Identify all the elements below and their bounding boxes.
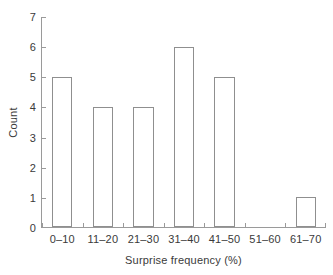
y-axis-tick-label: 7	[18, 12, 36, 22]
bar	[93, 107, 113, 227]
x-axis-tick-label: 11–20	[83, 232, 124, 246]
x-axis-line	[41, 227, 326, 228]
y-axis-tick-labels: 01234567	[14, 0, 36, 275]
y-axis-tick-label: 2	[18, 163, 36, 173]
y-axis-tick-label: 3	[18, 133, 36, 143]
x-axis-tick-labels: 0–1011–2021–3031–4041–5051–6061–70	[41, 232, 326, 248]
y-axis-tick-label: 1	[18, 193, 36, 203]
bars-layer	[42, 17, 326, 227]
bar	[174, 47, 194, 227]
bar	[52, 77, 72, 227]
x-axis-tick-label: 51–60	[245, 232, 286, 246]
bar	[214, 77, 234, 227]
bar	[296, 197, 316, 227]
x-axis-tick-label: 61–70	[285, 232, 326, 246]
bar	[133, 107, 153, 227]
histogram-figure: Count 01234567 0–1011–2021–3031–4041–505…	[0, 0, 333, 275]
y-axis-tick-label: 5	[18, 72, 36, 82]
y-axis-tick-mark	[42, 227, 46, 228]
y-axis-tick-label: 0	[18, 223, 36, 233]
x-axis-title: Surprise frequency (%)	[41, 253, 326, 267]
x-axis-tick-label: 0–10	[42, 232, 83, 246]
x-axis-tick-label: 31–40	[164, 232, 205, 246]
y-axis-tick-label: 6	[18, 42, 36, 52]
plot-area	[41, 17, 326, 228]
x-axis-tick-label: 21–30	[123, 232, 164, 246]
x-axis-tick-label: 41–50	[204, 232, 245, 246]
y-axis-tick-label: 4	[18, 102, 36, 112]
